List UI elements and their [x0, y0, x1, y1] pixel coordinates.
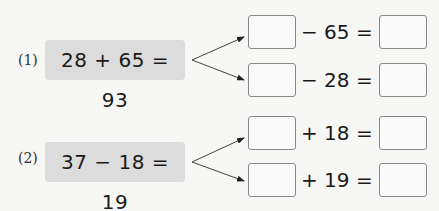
given-equation: 28 + 65 = 93 [45, 40, 185, 80]
answer-row-2: − 28 = [248, 62, 427, 98]
answer-row-2: + 19 = [248, 162, 427, 198]
branch-arrows-icon [188, 105, 250, 205]
problem-1: (1) 28 + 65 = 93 − 65 = − 28 = [0, 0, 439, 100]
answer-blank-right[interactable] [379, 163, 427, 197]
operation-text: − 28 = [296, 68, 379, 92]
operation-text: − 65 = [296, 20, 379, 44]
operation-text: + 18 = [296, 121, 379, 145]
answer-blank-left[interactable] [248, 163, 296, 197]
problem-2: (2) 37 − 18 = 19 + 18 = + 19 = [0, 105, 439, 205]
branch-arrows-icon [188, 0, 250, 100]
answer-row-1: − 65 = [248, 14, 427, 50]
answer-blank-left[interactable] [248, 63, 296, 97]
answer-blank-left[interactable] [248, 116, 296, 150]
problem-number: (1) [18, 52, 38, 68]
answer-blank-right[interactable] [379, 15, 427, 49]
answer-blank-right[interactable] [379, 63, 427, 97]
problem-number: (2) [18, 150, 38, 166]
given-equation: 37 − 18 = 19 [45, 142, 185, 182]
answer-blank-right[interactable] [379, 116, 427, 150]
answer-row-1: + 18 = [248, 115, 427, 151]
answer-blank-left[interactable] [248, 15, 296, 49]
operation-text: + 19 = [296, 168, 379, 192]
